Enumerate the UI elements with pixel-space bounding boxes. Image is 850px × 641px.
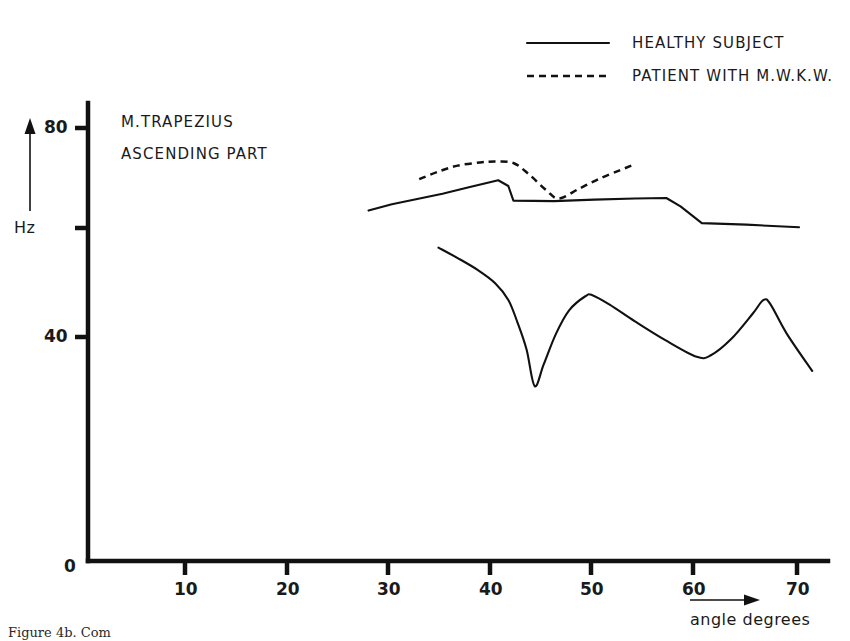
x-tick-label-10: 10 [174,579,198,599]
x-tick-label-50: 50 [580,579,604,599]
chart-title-line-1: M.TRAPEZIUS [121,113,234,131]
x-tick-label-30: 30 [377,579,401,599]
x-axis-label: angle degrees [690,610,810,629]
figure-caption: Figure 4b. Com [8,625,111,640]
legend-label-patient: PATIENT WITH M.W.K.W. [632,67,833,85]
y-tick-label-80: 80 [44,117,68,137]
chart-title-line-2: ASCENDING PART [121,145,268,163]
y-axis-arrow-head [25,118,36,134]
x-tick-label-20: 20 [276,579,300,599]
x-tick-label-70: 70 [786,579,810,599]
chart-canvas [0,0,850,641]
figure-root: 80 40 0 10 20 30 40 50 60 70 Hz angle de… [0,0,850,641]
x-tick-label-60: 60 [682,579,706,599]
series-patient-band [419,161,634,198]
x-tick-label-40: 40 [479,579,503,599]
x-tick-label-0: 0 [64,556,76,576]
y-axis-label: Hz [14,218,35,237]
series-lower-band [438,248,812,387]
series-layer [369,161,813,386]
legend-label-healthy: HEALTHY SUBJECT [632,34,785,52]
y-tick-label-40: 40 [44,326,68,346]
x-axis-arrow-head [744,595,760,606]
